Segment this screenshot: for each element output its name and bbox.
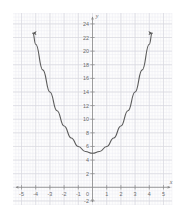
y-axis-label: y	[95, 13, 99, 19]
x-tick-label: 5	[162, 191, 165, 197]
parabola-graph-figure: -5-4-3-2-1012345-224681012141618202224xy	[0, 0, 187, 220]
y-tick-label: -2	[84, 198, 89, 204]
x-tick-label: 1	[105, 191, 108, 197]
x-tick-label: 0	[86, 191, 89, 197]
graph-canvas: -5-4-3-2-1012345-224681012141618202224xy	[0, 0, 187, 220]
x-tick-label: -3	[48, 191, 53, 197]
x-tick-label: -4	[33, 191, 38, 197]
y-tick-label: 14	[83, 89, 89, 95]
y-tick-label: 16	[83, 75, 89, 81]
x-tick-label: 2	[119, 191, 122, 197]
y-tick-label: 24	[83, 21, 89, 27]
y-tick-label: 2	[86, 171, 89, 177]
x-tick-label: -2	[62, 191, 67, 197]
y-tick-label: 4	[86, 157, 89, 163]
x-axis-label: x	[169, 179, 173, 185]
y-tick-label: 20	[83, 48, 89, 54]
y-tick-label: 6	[86, 143, 89, 149]
x-tick-label: -1	[76, 191, 81, 197]
x-tick-label: -5	[19, 191, 24, 197]
y-tick-label: 18	[83, 62, 89, 68]
y-tick-label: 12	[83, 103, 89, 109]
y-tick-label: 22	[83, 35, 89, 41]
x-tick-label: 4	[148, 191, 151, 197]
y-tick-label: 8	[86, 130, 89, 136]
x-tick-label: 3	[134, 191, 137, 197]
y-tick-label: 10	[83, 116, 89, 122]
